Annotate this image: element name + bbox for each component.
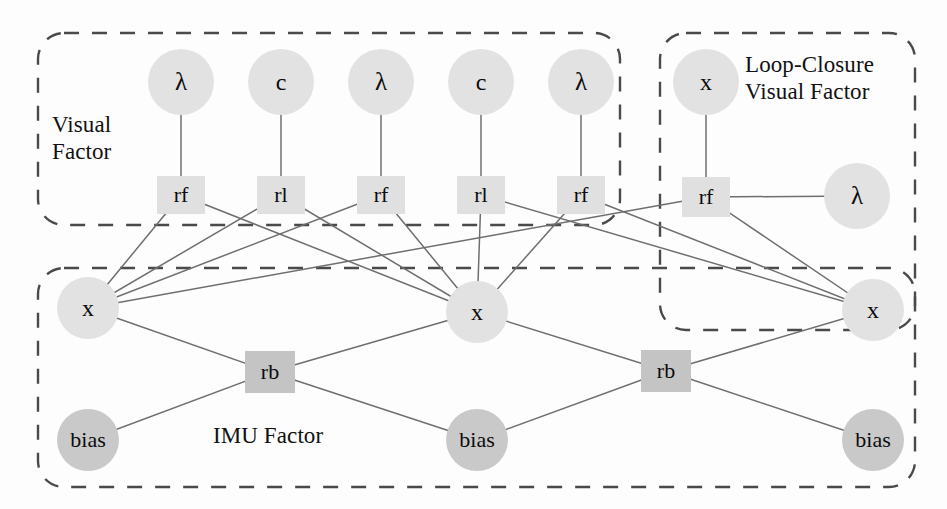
variable-node-lam1[interactable] bbox=[148, 49, 214, 115]
factor-node-rb2[interactable] bbox=[641, 350, 691, 392]
edge-rb1-x2 bbox=[270, 312, 477, 372]
edge-rb2-x3 bbox=[666, 310, 873, 371]
variable-node-c1[interactable] bbox=[248, 49, 314, 115]
variable-node-lam3[interactable] bbox=[548, 49, 614, 115]
edges-layer bbox=[88, 82, 873, 440]
diagram-canvas: Visual FactorLoop-Closure Visual FactorI… bbox=[0, 0, 947, 509]
variable-node-bias3[interactable] bbox=[842, 409, 904, 471]
factor-node-rf2[interactable] bbox=[357, 176, 405, 214]
edge-rl2-x3 bbox=[481, 195, 873, 310]
variable-node-x3[interactable] bbox=[842, 279, 904, 341]
factor-node-rf1[interactable] bbox=[157, 176, 205, 214]
variable-node-lam2[interactable] bbox=[348, 49, 414, 115]
variable-node-c2[interactable] bbox=[448, 49, 514, 115]
group-label-loop-closure-visual-factor: Loop-Closure Visual Factor bbox=[745, 52, 874, 105]
variable-node-lclam[interactable] bbox=[824, 163, 890, 229]
factor-node-rb1[interactable] bbox=[245, 351, 295, 393]
edge-rf1-x2 bbox=[181, 195, 477, 312]
factor-node-lcrf[interactable] bbox=[682, 177, 730, 217]
factor-node-rf3[interactable] bbox=[557, 176, 605, 214]
group-label-visual-factor: Visual Factor bbox=[52, 112, 111, 165]
variable-node-x1[interactable] bbox=[57, 277, 119, 339]
edge-rf2-x1 bbox=[88, 195, 381, 308]
group-label-imu-factor: IMU Factor bbox=[213, 423, 323, 450]
variable-node-x2[interactable] bbox=[446, 281, 508, 343]
factor-node-rl1[interactable] bbox=[257, 176, 305, 214]
variable-node-bias2[interactable] bbox=[446, 409, 508, 471]
variable-node-lcx[interactable] bbox=[673, 49, 739, 115]
variable-node-bias1[interactable] bbox=[57, 409, 119, 471]
group-box-visual-factor bbox=[38, 33, 620, 225]
edge-rb2-bias3 bbox=[666, 371, 873, 440]
factor-node-rl2[interactable] bbox=[457, 176, 505, 214]
